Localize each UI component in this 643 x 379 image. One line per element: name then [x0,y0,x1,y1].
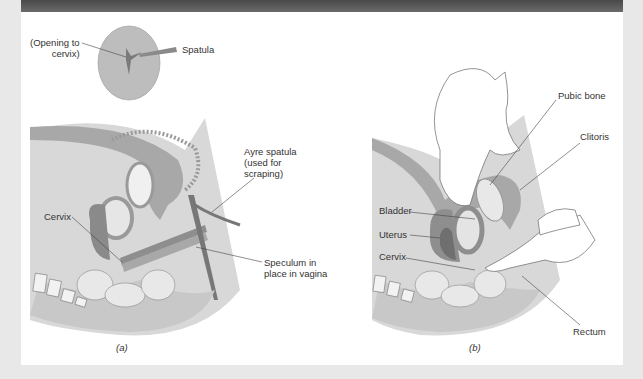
label-rectum: Rectum [573,326,606,337]
sagittal-view-b [372,69,595,336]
label-ayre-spatula: Ayre spatula (used for scraping) [244,146,297,179]
label-cervix-a: Cervix [44,211,71,222]
sagittal-view-a [30,118,262,335]
label-uterus: Uterus [379,229,407,240]
label-spatula: Spatula [182,44,214,55]
label-opening-to-cervix: (Opening to cervix) [30,37,80,59]
anatomy-illustration [0,0,643,379]
label-clitoris: Clitoris [580,131,609,142]
caption-b: (b) [469,342,481,353]
label-speculum: Speculum in place in vagina [264,257,327,279]
label-bladder: Bladder [379,205,412,216]
cervix-view-illustration [82,26,177,100]
caption-a: (a) [116,342,128,353]
label-cervix-b: Cervix [379,251,406,262]
label-pubic-bone: Pubic bone [558,90,606,101]
